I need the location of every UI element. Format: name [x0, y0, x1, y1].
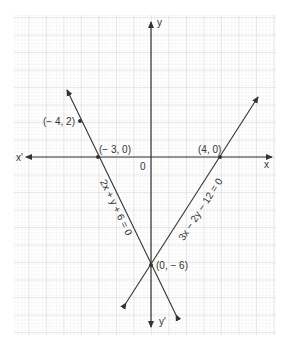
point-label: (− 4, 2): [43, 117, 75, 127]
point-label: (4, 0): [198, 145, 221, 155]
point-neg4-2: [78, 119, 82, 123]
graph-diagram: y y' x x' 0 (− 4, 2) (− 3, 0) (4, 0) (0,…: [0, 0, 290, 351]
y-neg-axis-label: y': [159, 317, 166, 327]
x-neg-axis-label: x': [16, 153, 23, 163]
point-4-0: [218, 155, 222, 159]
point-neg3-0: [96, 155, 100, 159]
graph-canvas: [0, 0, 290, 351]
origin-label: 0: [140, 162, 146, 172]
point-label: (− 3, 0): [99, 145, 131, 155]
y-axis-label: y: [157, 18, 162, 28]
point-label: (0, − 6): [156, 261, 188, 271]
point-0-neg6: [149, 263, 153, 267]
x-axis-label: x: [264, 160, 269, 170]
